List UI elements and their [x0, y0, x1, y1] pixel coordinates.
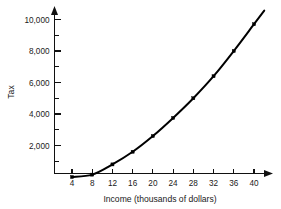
y-tick-label: 2,000 [29, 142, 50, 151]
data-point [151, 135, 154, 138]
x-tick-label: 16 [128, 179, 138, 188]
y-axis-tick-labels: 2,0004,0006,0008,00010,000 [24, 16, 49, 151]
chart-canvas: 2,0004,0006,0008,00010,000 4812162024283… [0, 0, 281, 209]
data-point [111, 163, 114, 166]
x-axis-tick-labels: 481216202428323640 [70, 179, 259, 188]
x-tick-label: 32 [209, 179, 219, 188]
tax-income-chart: 2,0004,0006,0008,00010,000 4812162024283… [0, 0, 281, 209]
x-axis-arrow-icon [264, 170, 273, 177]
axes-group [51, 6, 273, 177]
y-tick-label: 4,000 [29, 110, 50, 119]
x-tick-label: 36 [229, 179, 239, 188]
x-tick-label: 24 [169, 179, 179, 188]
y-axis-title: Tax [6, 85, 16, 99]
y-axis-ticks [55, 20, 61, 162]
tax-curve [72, 11, 264, 177]
data-point [91, 173, 94, 176]
x-tick-label: 20 [148, 179, 158, 188]
y-tick-label: 6,000 [29, 79, 50, 88]
x-axis-title: Income (thousands of dollars) [103, 194, 216, 204]
data-point-markers [70, 23, 255, 179]
data-point [252, 23, 255, 26]
x-tick-label: 28 [189, 179, 199, 188]
x-tick-label: 40 [249, 179, 259, 188]
data-point [131, 150, 134, 153]
x-tick-label: 8 [90, 179, 95, 188]
y-tick-label: 8,000 [29, 47, 50, 56]
y-tick-label: 10,000 [24, 16, 49, 25]
y-axis-arrow-icon [51, 6, 58, 15]
data-point [212, 75, 215, 78]
x-tick-label: 12 [108, 179, 118, 188]
data-point [192, 97, 195, 100]
data-point [70, 175, 73, 178]
data-point [232, 49, 235, 52]
data-point [172, 116, 175, 119]
x-tick-label: 4 [70, 179, 75, 188]
